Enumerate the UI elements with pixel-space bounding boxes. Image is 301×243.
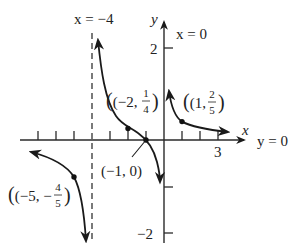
- asymptote-label-x-0: x = 0: [176, 26, 207, 42]
- x-ticks: [38, 131, 218, 140]
- svg-text:4: 4: [55, 181, 61, 193]
- y-tick-label-2: 2: [150, 41, 158, 57]
- point-label-neg1: (−1, 0): [101, 163, 142, 180]
- svg-text:1: 1: [143, 87, 149, 99]
- asymptote-label-y-0: y = 0: [257, 133, 288, 149]
- svg-text:4: 4: [143, 103, 149, 115]
- point-label-neg5: ((−5, − 4 5 ): [8, 181, 71, 209]
- svg-text:2: 2: [209, 88, 215, 100]
- asymptote-label-x-neg4: x = −4: [74, 11, 114, 27]
- svg-text:): ): [152, 90, 159, 113]
- point-1: [179, 119, 184, 124]
- svg-text:5: 5: [209, 104, 215, 116]
- rational-function-graph: x = −4 y x = 0 2 −2 x y = 0 3 ((−2, 1 4 …: [0, 0, 301, 243]
- x-axis-label: x: [241, 122, 249, 138]
- point-neg2: [125, 126, 130, 131]
- leader-line-neg1: [132, 140, 146, 157]
- svg-text:((1,: ((1,: [183, 90, 206, 113]
- point-neg5: [71, 174, 76, 179]
- curve-middle-branch: [98, 40, 160, 182]
- svg-text:): ): [218, 91, 225, 114]
- point-label-1: ((1, 2 5 ): [183, 88, 225, 116]
- svg-text:((−5, −: ((−5, −: [8, 183, 52, 206]
- svg-text:5: 5: [55, 197, 61, 209]
- y-tick-label-neg2: −2: [137, 226, 153, 242]
- y-axis-label: y: [149, 11, 158, 27]
- svg-text:): ): [64, 184, 71, 207]
- svg-text:((−2,: ((−2,: [106, 89, 137, 112]
- x-tick-label-3: 3: [214, 144, 222, 160]
